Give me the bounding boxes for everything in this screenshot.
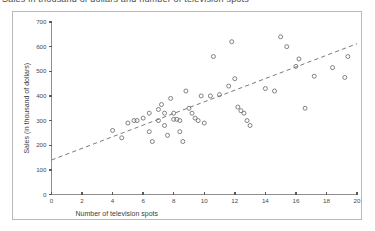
data-point	[187, 106, 191, 110]
data-point	[279, 35, 283, 39]
data-point	[178, 130, 182, 134]
scatter-plot: 010020030040050060070002468101214161820N…	[0, 0, 375, 231]
data-point	[163, 111, 167, 115]
data-point	[172, 111, 176, 115]
data-point	[181, 140, 185, 144]
data-point	[312, 74, 316, 78]
x-tick-label: 18	[323, 197, 330, 204]
data-point	[147, 111, 151, 115]
x-tick-label: 6	[141, 197, 145, 204]
data-point	[163, 124, 167, 128]
x-tick-label: 16	[292, 197, 299, 204]
data-point	[126, 121, 130, 125]
data-point	[331, 66, 335, 70]
data-point	[227, 84, 231, 88]
data-point	[159, 103, 163, 107]
y-tick-label: 500	[36, 67, 47, 74]
data-point	[120, 136, 124, 140]
x-axis-title: Number of television spots	[76, 210, 159, 218]
x-tick-label: 4	[111, 197, 115, 204]
data-point	[343, 75, 347, 79]
data-point	[156, 107, 160, 111]
y-tick-label: 200	[36, 141, 47, 148]
data-point	[245, 119, 249, 123]
data-point	[199, 94, 203, 98]
x-tick-label: 10	[201, 197, 208, 204]
data-point	[230, 40, 234, 44]
y-tick-label: 700	[36, 18, 47, 25]
data-point	[273, 89, 277, 93]
data-point	[285, 45, 289, 49]
y-tick-label: 400	[36, 92, 47, 99]
data-point	[141, 116, 145, 120]
x-tick-label: 2	[80, 197, 84, 204]
data-point	[211, 55, 215, 59]
data-point	[150, 140, 154, 144]
data-point	[346, 55, 350, 59]
data-point	[111, 128, 115, 132]
y-axis-title: Sales (in thousand of dollars)	[23, 63, 31, 154]
data-point	[184, 89, 188, 93]
y-tick-label: 0	[43, 191, 47, 198]
data-point	[208, 94, 212, 98]
x-tick-label: 0	[50, 197, 54, 204]
data-point	[202, 121, 206, 125]
y-tick-label: 600	[36, 43, 47, 50]
trend-line	[52, 44, 358, 160]
data-point	[196, 119, 200, 123]
data-point	[236, 105, 240, 109]
x-tick-label: 20	[354, 197, 361, 204]
data-point	[190, 111, 194, 115]
y-tick-label: 100	[36, 166, 47, 173]
data-point	[303, 106, 307, 110]
data-point	[242, 111, 246, 115]
data-point	[297, 57, 301, 61]
data-point	[169, 96, 173, 100]
y-tick-label: 300	[36, 117, 47, 124]
data-point	[263, 87, 267, 91]
x-tick-label: 8	[172, 197, 176, 204]
chart-figure: Sales in thousand of dollars and number …	[0, 0, 375, 231]
data-point	[248, 124, 252, 128]
data-point	[166, 133, 170, 137]
data-point	[147, 130, 151, 134]
data-points	[111, 35, 350, 144]
x-tick-label: 12	[231, 197, 238, 204]
x-tick-label: 14	[262, 197, 269, 204]
data-point	[233, 77, 237, 81]
